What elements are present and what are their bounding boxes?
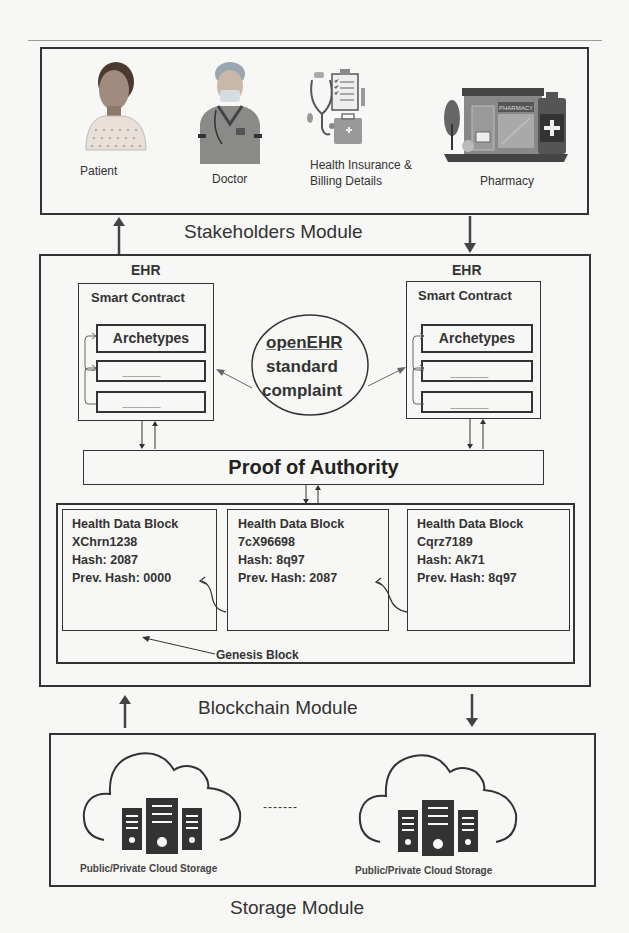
cloud-server-icon-2 bbox=[358, 742, 528, 860]
block-2-hash: Hash: 8q97 bbox=[238, 552, 305, 569]
block-2-id: 7cX96698 bbox=[238, 534, 295, 551]
block-2-prev-hash: Prev. Hash: 2087 bbox=[238, 570, 337, 587]
block-2-title: Health Data Block bbox=[238, 516, 344, 533]
block-3-id: Cqrz7189 bbox=[417, 534, 473, 551]
block-3-hash: Hash: Ak71 bbox=[417, 552, 485, 569]
blockchain-module-title: Blockchain Module bbox=[198, 697, 357, 719]
proof-of-authority-label: Proof of Authority bbox=[83, 456, 544, 479]
up-arrow-icon-2 bbox=[118, 694, 132, 730]
cloud-storage-label-2: Public/Private Cloud Storage bbox=[355, 865, 492, 876]
storage-separator: ------- bbox=[263, 800, 298, 814]
block-1-id: XChrn1238 bbox=[72, 534, 137, 551]
down-arrow-icon-2 bbox=[465, 693, 479, 729]
genesis-block-label: Genesis Block bbox=[216, 648, 299, 662]
block-1-prev-hash: Prev. Hash: 0000 bbox=[72, 570, 171, 587]
block-1-hash: Hash: 2087 bbox=[72, 552, 138, 569]
block-3-title: Health Data Block bbox=[417, 516, 523, 533]
block-1-title: Health Data Block bbox=[72, 516, 178, 533]
storage-module-title: Storage Module bbox=[230, 897, 364, 919]
cloud-storage-label-1: Public/Private Cloud Storage bbox=[80, 863, 217, 874]
block-3-prev-hash: Prev. Hash: 8q97 bbox=[417, 570, 517, 587]
cloud-server-icon bbox=[82, 740, 252, 858]
